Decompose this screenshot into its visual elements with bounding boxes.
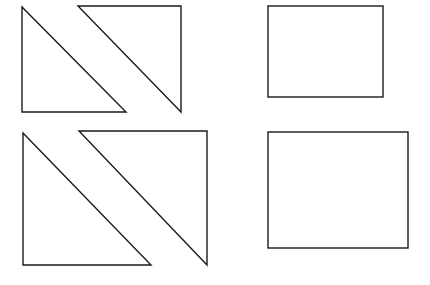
bottom-left-triangle-outline bbox=[23, 133, 151, 265]
top-right-triangle-outline bbox=[78, 6, 181, 112]
bottom-right-triangle bbox=[79, 131, 207, 265]
top-rectangle-outline bbox=[268, 6, 383, 97]
top-left-triangle-outline bbox=[22, 7, 126, 112]
bottom-rectangle-outline bbox=[268, 132, 408, 248]
bottom-left-triangle bbox=[23, 133, 151, 265]
top-left-triangle bbox=[22, 7, 126, 112]
triangular-numbers-diagram bbox=[0, 0, 430, 285]
bottom-rectangle bbox=[268, 132, 408, 248]
top-right-triangle bbox=[78, 6, 181, 112]
bottom-right-triangle-outline bbox=[79, 131, 207, 265]
top-rectangle bbox=[268, 6, 383, 97]
